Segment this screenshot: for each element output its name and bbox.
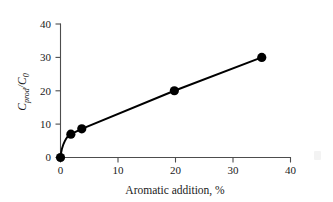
x-axis-title: Aromatic addition, % (125, 184, 225, 197)
data-point (170, 86, 179, 95)
data-series-group (56, 53, 266, 162)
x-tick-label-30: 30 (228, 164, 240, 176)
series-line (61, 57, 262, 157)
y-axis-title: Cprod/C0 (16, 73, 31, 110)
y-axis-tick-labels: 0 10 20 30 40 (40, 18, 52, 164)
y-tick-label-30: 30 (40, 51, 52, 63)
page-corner-artifact (314, 151, 321, 160)
y-tick-label-40: 40 (40, 18, 52, 30)
series-markers (56, 53, 266, 162)
y-tick-label-10: 10 (40, 118, 52, 130)
data-point (66, 130, 75, 139)
chart-figure: 0 10 20 30 40 0 10 20 30 40 Aromat (0, 0, 333, 202)
x-tick-label-40: 40 (285, 164, 297, 176)
y-axis-ticks (56, 24, 61, 158)
x-tick-label-20: 20 (170, 164, 182, 176)
data-point (257, 53, 266, 62)
y-tick-label-0: 0 (46, 151, 52, 163)
svg-text:Cprod/C0: Cprod/C0 (16, 73, 31, 110)
x-tick-label-0: 0 (58, 164, 64, 176)
y-axis-title-sub1: prod (22, 87, 31, 104)
x-axis-tick-labels: 0 10 20 30 40 (58, 164, 297, 176)
data-point (56, 153, 65, 162)
line-chart: 0 10 20 30 40 0 10 20 30 40 Aromat (0, 0, 333, 202)
x-axis-ticks (61, 158, 291, 163)
y-tick-label-20: 20 (40, 85, 52, 97)
y-axis-title-sub2: 0 (22, 73, 31, 77)
data-point (77, 124, 86, 133)
x-tick-label-10: 10 (113, 164, 125, 176)
